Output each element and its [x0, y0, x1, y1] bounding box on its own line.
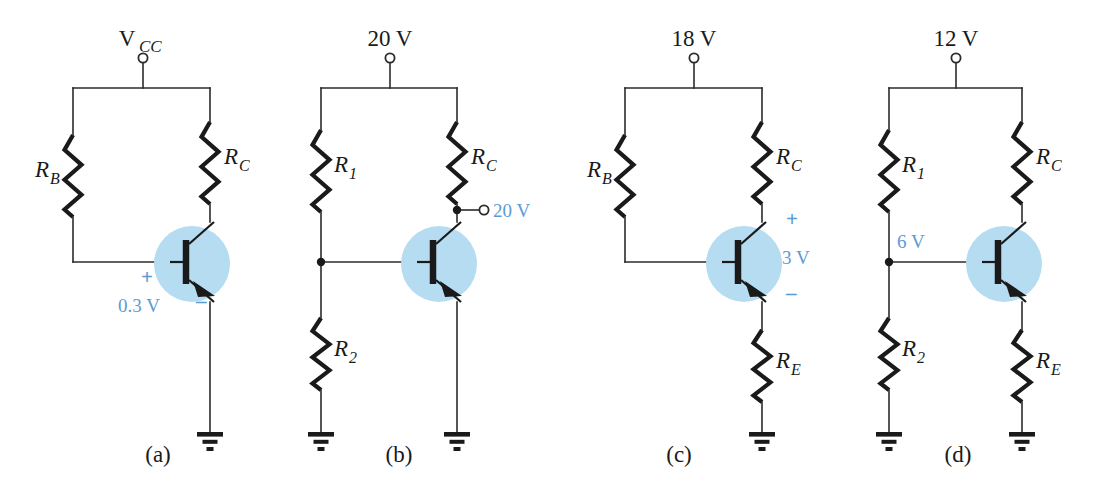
resistor-a-RB-label-text: R [34, 157, 49, 182]
resistor-c-RE-label: RE [775, 348, 801, 378]
ground-symbol-d-1-bar-0 [1009, 432, 1035, 437]
resistor-d-RE-label: RE [1035, 348, 1061, 378]
resistor-a-RB [65, 135, 82, 217]
transistor-b-highlight [401, 226, 477, 302]
supply-label-a: VCC [119, 26, 163, 56]
resistor-b-R2-label-text: R [333, 336, 348, 361]
ground-symbol-a-0-bar-2 [207, 447, 214, 451]
junction-dot-d-0 [885, 258, 893, 266]
circuit-d: 12 VR1RCR2RE6 V(d) [876, 26, 1062, 467]
resistor-b-RC-label-sub: C [486, 157, 497, 174]
resistor-c-RC-body [754, 122, 771, 204]
annotation-a-0: + [141, 265, 153, 289]
resistor-d-RE-body [1014, 330, 1031, 402]
supply-terminal-d[interactable] [951, 53, 960, 62]
resistor-b-R1 [313, 130, 330, 212]
output-terminal-b-0[interactable] [479, 205, 488, 214]
resistor-b-R1-label: R1 [333, 152, 357, 182]
supply-label-d: 12 V [934, 26, 979, 51]
resistor-c-RE [754, 330, 771, 402]
resistor-c-RB [617, 135, 634, 217]
resistor-c-RE-label-sub: E [790, 361, 801, 378]
resistor-d-RE [1014, 330, 1031, 402]
resistor-b-R1-label-text: R [333, 152, 348, 177]
annotation-b-0: 20 V [493, 200, 530, 221]
caption-d: (d) [945, 442, 972, 467]
resistor-d-R1-body [881, 130, 898, 212]
supply-label-sub-a: CC [139, 37, 162, 56]
ground-symbol-d-1-bar-2 [1019, 447, 1026, 451]
supply-label-c: 18 V [672, 26, 717, 51]
ground-symbol-b-1 [444, 432, 470, 451]
annotation-a-2: – [195, 289, 207, 313]
resistor-c-RE-body [754, 330, 771, 402]
resistor-d-R1-label: R1 [901, 152, 925, 182]
ground-symbol-b-0-bar-2 [318, 447, 325, 451]
resistor-c-RE-label-text: R [775, 348, 790, 373]
resistor-a-RC-label: RC [223, 144, 250, 174]
resistor-d-R2-label-sub: 2 [917, 349, 925, 366]
resistor-a-RC-body [202, 122, 219, 204]
caption-a: (a) [145, 442, 171, 467]
resistor-b-R2-body [313, 318, 330, 390]
resistor-d-R1 [881, 130, 898, 212]
ground-symbol-b-1-bar-2 [454, 447, 461, 451]
ground-symbol-d-1-bar-1 [1015, 440, 1030, 444]
resistor-b-R2-label: R2 [333, 336, 357, 366]
ground-symbol-c-0-bar-2 [759, 447, 766, 451]
supply-label-text-a: V [119, 26, 136, 51]
caption-c: (c) [666, 442, 692, 467]
resistor-c-RB-label-sub: B [602, 170, 612, 187]
resistor-d-RC-label-sub: C [1051, 157, 1062, 174]
ground-symbol-b-1-bar-1 [450, 440, 465, 444]
ground-symbol-b-0 [308, 432, 334, 451]
circuit-a: VCCRBRC+0.3 V–(a) [34, 26, 250, 467]
ground-symbol-a-0 [197, 432, 223, 451]
resistor-d-RC-label: RC [1035, 144, 1062, 174]
circuit-figure: VCCRBRC+0.3 V–(a)20 VR1RCR220 V(b)18 VRB… [0, 0, 1094, 503]
resistor-b-RC-body [449, 122, 466, 204]
resistor-d-R1-label-text: R [901, 152, 916, 177]
resistor-a-RB-body [65, 135, 82, 217]
transistor-a [154, 222, 230, 302]
annotation-a-1: 0.3 V [118, 295, 160, 316]
ground-symbol-c-0-bar-0 [749, 432, 775, 437]
circuit-b: 20 VR1RCR220 V(b) [308, 26, 530, 467]
ground-symbol-d-0-bar-0 [876, 432, 902, 437]
ground-symbol-b-0-bar-1 [314, 440, 329, 444]
supply-label-b: 20 V [368, 26, 413, 51]
resistor-d-RC-label-text: R [1035, 144, 1050, 169]
resistor-c-RB-label-text: R [586, 157, 601, 182]
resistor-d-R2-label-text: R [901, 336, 916, 361]
transistor-b [401, 222, 477, 302]
resistor-d-R1-label-sub: 1 [917, 165, 925, 182]
ground-symbol-d-0-bar-2 [886, 447, 893, 451]
resistor-c-RC [754, 122, 771, 204]
supply-terminal-b[interactable] [385, 53, 394, 62]
resistor-a-RC-label-text: R [223, 144, 238, 169]
resistor-b-RC [449, 122, 466, 204]
resistor-b-RC-label: RC [470, 144, 497, 174]
resistor-b-R2-label-sub: 2 [349, 349, 357, 366]
supply-terminal-c[interactable] [689, 53, 698, 62]
resistor-d-R2-body [881, 318, 898, 390]
transistor-a-highlight [154, 226, 230, 302]
transistor-c [706, 222, 782, 302]
transistor-c-highlight [706, 226, 782, 302]
resistor-c-RB-label: RB [586, 157, 612, 187]
resistor-d-RE-label-sub: E [1050, 361, 1061, 378]
ground-symbol-d-0 [876, 432, 902, 451]
transistor-d-highlight [966, 226, 1042, 302]
resistor-d-RC-body [1014, 122, 1031, 204]
annotation-d-0: 6 V [897, 231, 925, 252]
annotation-c-1: 3 V [782, 247, 810, 268]
ground-symbol-a-0-bar-1 [203, 440, 218, 444]
junction-dot-b-1 [453, 206, 461, 214]
resistor-d-RC [1014, 122, 1031, 204]
resistor-b-RC-label-text: R [470, 144, 485, 169]
resistor-b-R1-body [313, 130, 330, 212]
resistor-d-RE-label-text: R [1035, 348, 1050, 373]
resistor-a-RB-label-sub: B [50, 170, 60, 187]
resistor-c-RC-label: RC [775, 144, 802, 174]
resistor-d-R2-label: R2 [901, 336, 925, 366]
